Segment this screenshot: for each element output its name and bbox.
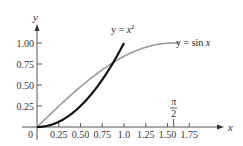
x-tick-label: 0.50: [72, 129, 90, 140]
x-axis-arrow-icon: [217, 125, 224, 130]
x-tick-label: 0.75: [94, 129, 112, 140]
x-tick-label: 1.0: [118, 129, 131, 140]
origin-label: 0: [28, 129, 33, 140]
ticks: [37, 43, 189, 127]
x-squared-label: y = x2: [111, 23, 135, 35]
pi-over-2-numerator: π: [171, 96, 176, 107]
chart: xy00.250.500.751.01.251.501.750.250.500.…: [0, 0, 243, 146]
x-axis-label: x: [227, 121, 233, 133]
curves: [37, 43, 180, 127]
y-axis-arrow-icon: [35, 24, 40, 31]
y-tick-label: 0.50: [17, 80, 35, 91]
pi-over-2-denominator: 2: [171, 108, 176, 119]
labels: xy00.250.500.751.01.251.501.750.250.500.…: [17, 11, 234, 140]
x-tick-label: 1.25: [137, 129, 155, 140]
y-tick-label: 0.25: [17, 101, 35, 112]
y-tick-label: 1.00: [17, 38, 35, 49]
sin-x-curve: [37, 43, 174, 127]
x-tick-label: 0.25: [50, 129, 68, 140]
y-tick-label: 0.75: [17, 59, 35, 70]
y-axis-label: y: [32, 11, 38, 23]
sin-x-label: y = sin x: [176, 37, 211, 48]
x-tick-label: 1.50: [159, 129, 177, 140]
x-tick-label: 1.75: [181, 129, 199, 140]
